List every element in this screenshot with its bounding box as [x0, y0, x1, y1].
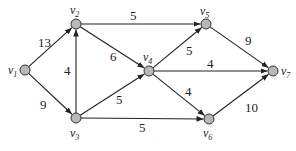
node-v2 [71, 19, 81, 29]
node-label-v3: v3 [70, 126, 79, 142]
edge-v3-v6 [81, 118, 204, 119]
node-v7 [268, 66, 278, 76]
node-label-v1: v1 [8, 63, 17, 79]
edge-weight-label: 4 [185, 84, 192, 99]
edge-v1-v3 [29, 73, 72, 114]
edge-v3-v4 [80, 74, 144, 115]
node-v3 [71, 113, 81, 123]
edge-weight-label: 13 [38, 35, 51, 50]
edge-v5-v7 [210, 27, 268, 68]
edge-weight-label: 4 [207, 56, 214, 71]
node-label-v7: v7 [281, 64, 291, 80]
node-v6 [204, 114, 214, 124]
node-v1 [20, 65, 30, 75]
edge-weight-label: 5 [186, 43, 193, 58]
edge-v4-v6 [153, 74, 205, 115]
edge-weight-label: 9 [245, 33, 252, 48]
edge-v4-v5 [153, 27, 202, 67]
edge-weight-label: 5 [130, 8, 137, 23]
edge-v6-v7 [213, 74, 269, 116]
edge-weight-label: 5 [116, 92, 123, 107]
node-label-v4: v4 [143, 50, 152, 66]
edge-weight-label: 9 [40, 97, 47, 112]
node-v4 [144, 66, 154, 76]
node-label-v2: v2 [70, 3, 79, 19]
node-v5 [201, 19, 211, 29]
edge-weight-label: 10 [245, 100, 258, 115]
edge-weight-label: 4 [64, 63, 71, 78]
node-label-v5: v5 [200, 4, 209, 20]
node-label-v6: v6 [203, 126, 212, 142]
edge-weight-label: 6 [110, 49, 117, 64]
edge-weight-label: 5 [139, 120, 146, 135]
directed-weighted-graph: 13945655544910 v1v2v3v4v5v6v7 [0, 0, 296, 151]
